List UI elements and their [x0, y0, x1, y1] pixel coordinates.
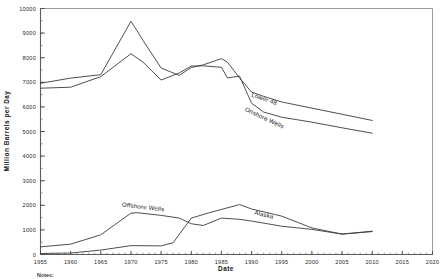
notes-label: Notes:	[37, 272, 54, 278]
series-label-offshore-wells: Offshore Wells	[122, 201, 165, 213]
x-tick-label: 1995	[275, 259, 288, 265]
y-tick-label: 3000	[23, 178, 36, 184]
x-tick-label: 1980	[185, 259, 198, 265]
series-label-alaska: Alaska	[254, 209, 275, 220]
y-tick-label: 1000	[23, 227, 36, 233]
series-label-lower-48: Lower 48	[251, 91, 279, 106]
series-label-onshore-wells: Onshore Wells	[244, 105, 285, 129]
x-tick-label: 1990	[245, 259, 258, 265]
y-tick-label: 8000	[23, 55, 36, 61]
y-axis-tick-labels: 0100020003000400050006000700080009000100…	[19, 6, 36, 258]
y-axis-title: Million Barrels per Day	[3, 91, 11, 172]
x-tick-label: 2010	[365, 259, 378, 265]
series-line-alaska	[41, 205, 373, 254]
oil-production-chart-figure: 0100020003000400050006000700080009000100…	[0, 0, 441, 279]
x-tick-label: 1985	[215, 259, 228, 265]
x-tick-label: 1955	[34, 259, 47, 265]
plot-frame	[41, 9, 433, 255]
y-tick-label: 5000	[23, 129, 36, 135]
x-axis-tick-labels: 1955196019651970197519801985199019952000…	[34, 259, 439, 265]
series-lines-group	[41, 21, 373, 253]
x-tick-label: 2020	[426, 259, 439, 265]
x-axis-title: Date	[218, 265, 234, 272]
y-tick-label: 9000	[23, 30, 36, 36]
y-tick-label: 6000	[23, 104, 36, 110]
y-tick-label: 0	[33, 252, 36, 258]
x-tick-label: 2000	[305, 259, 318, 265]
x-tick-label: 1960	[64, 259, 77, 265]
x-tick-label: 1970	[124, 259, 137, 265]
x-tick-label: 1975	[154, 259, 167, 265]
x-tick-label: 2005	[335, 259, 348, 265]
x-tick-label: 1965	[94, 259, 107, 265]
y-tick-label: 10000	[19, 6, 36, 12]
x-tick-label: 2015	[396, 259, 409, 265]
y-tick-label: 7000	[23, 79, 36, 85]
line-chart-canvas: 0100020003000400050006000700080009000100…	[0, 0, 441, 279]
y-tick-label: 4000	[23, 153, 36, 159]
series-line-onshore-wells	[41, 54, 373, 133]
y-tick-label: 2000	[23, 202, 36, 208]
series-line-lower-48	[41, 21, 373, 120]
